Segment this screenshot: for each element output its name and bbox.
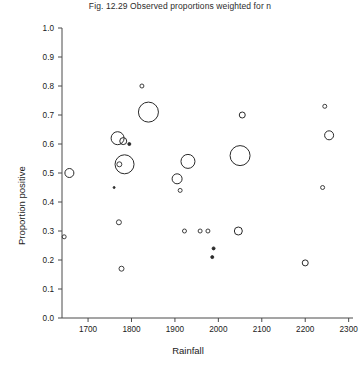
y-axis-tick-label: 0.4 [28,198,54,207]
y-axis-tick-label: 0.7 [28,111,54,120]
y-axis-tick-label: 0.2 [28,256,54,265]
scatter-plot-canvas [0,0,360,365]
data-point [128,143,131,146]
data-point [325,131,334,140]
y-axis-ticks [58,28,62,318]
y-axis-tick-label: 0.6 [28,140,54,149]
data-point [117,162,122,167]
data-point [65,169,74,178]
x-axis-tick-label: 2100 [242,325,282,334]
data-point [239,112,245,118]
axis-lines [62,28,353,318]
data-point [211,256,214,259]
y-axis-tick-label: 0.8 [28,82,54,91]
data-point [116,220,121,225]
x-axis-tick-label: 2000 [198,325,238,334]
data-point [182,229,186,233]
data-points-layer [62,84,333,271]
y-axis-tick-label: 0.9 [28,53,54,62]
data-point [115,155,134,174]
data-point [302,260,308,266]
x-axis-tick-label: 1700 [68,325,108,334]
y-axis-label: Proportion positive [16,166,27,245]
data-point [172,174,182,184]
x-axis-tick-label: 1800 [111,325,151,334]
data-point [230,146,250,166]
figure-container: Fig. 12.29 Observed proportions weighted… [0,0,360,365]
x-axis-tick-label: 2300 [329,325,360,334]
x-axis-tick-label: 2200 [285,325,325,334]
data-point [323,104,327,108]
x-axis-tick-label: 1900 [155,325,195,334]
data-point [321,186,325,190]
data-point [119,266,124,271]
data-point [140,84,144,88]
y-axis-tick-label: 1.0 [28,24,54,33]
data-point [181,154,195,168]
data-point [212,247,215,250]
data-point [113,187,115,189]
data-point [178,188,182,192]
data-point [138,102,158,122]
x-axis-label: Rainfall [8,345,360,356]
x-axis-ticks [88,318,349,322]
y-axis-tick-label: 0.5 [28,169,54,178]
data-point [62,235,66,239]
data-point [198,229,202,233]
data-point [206,229,210,233]
y-axis-tick-label: 0.0 [28,314,54,323]
y-axis-tick-label: 0.3 [28,227,54,236]
data-point [234,227,242,235]
y-axis-tick-label: 0.1 [28,285,54,294]
